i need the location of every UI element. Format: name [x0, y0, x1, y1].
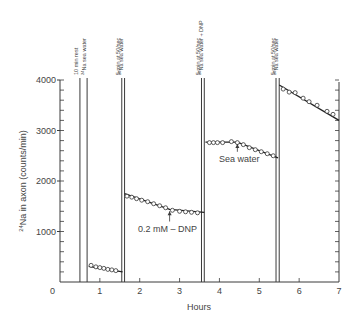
- y-axis-label: 24Na in axon (counts/min): [18, 130, 28, 232]
- arrowhead-icon: [235, 144, 239, 148]
- data-point: [281, 87, 285, 91]
- data-point: [178, 209, 182, 213]
- data-point: [130, 195, 134, 199]
- data-point: [287, 90, 291, 94]
- x-tick-label: 6: [297, 286, 302, 296]
- data-point: [229, 140, 233, 144]
- data-point: [146, 200, 150, 204]
- data-point: [106, 267, 110, 271]
- chart: 010002000300040001234567 10 min rest24Na…: [0, 0, 358, 321]
- vertical-marker-label: 24Na sea water + DNP: [197, 20, 204, 75]
- data-point: [253, 148, 257, 152]
- data-point: [315, 103, 319, 107]
- data-point: [158, 204, 162, 208]
- data-point: [164, 206, 168, 210]
- data-point: [114, 269, 118, 273]
- data-point: [125, 194, 129, 198]
- y-tick-label: 3000: [36, 126, 56, 136]
- vertical-markers: 10 min rest24Na sea water5 min at 50/sec…: [73, 20, 279, 282]
- y-tick-label: 4000: [36, 75, 56, 85]
- data-point: [331, 112, 335, 116]
- data-point: [152, 202, 156, 206]
- data-point: [98, 266, 102, 270]
- data-point: [135, 197, 139, 201]
- axes: 010002000300040001234567: [36, 75, 342, 296]
- y-tick-label: 1000: [36, 227, 56, 237]
- vertical-marker-label: 24Na sea water: [117, 38, 124, 75]
- y-tick-label: 0: [50, 286, 55, 296]
- x-tick-label: 4: [217, 286, 222, 296]
- data-point: [207, 141, 211, 145]
- data-point: [235, 141, 239, 145]
- vertical-marker-label: 10 min rest: [73, 47, 79, 75]
- data-point: [247, 146, 251, 150]
- data-point: [259, 150, 263, 154]
- data-point: [241, 143, 245, 147]
- annotations: 0.2 mM – DNPSea water: [138, 144, 260, 233]
- data-point: [325, 109, 329, 113]
- data-point: [211, 141, 215, 145]
- data-point: [102, 266, 106, 270]
- vertical-marker-label: 24Na sea water: [272, 38, 279, 75]
- data-point: [170, 208, 174, 212]
- data-point: [89, 263, 93, 267]
- data-point: [190, 210, 194, 214]
- data-point: [110, 268, 114, 272]
- x-axis-label: Hours: [187, 302, 212, 312]
- data-point: [293, 91, 297, 95]
- data-point: [265, 152, 269, 156]
- data-point: [301, 96, 305, 100]
- x-tick-label: 7: [336, 286, 341, 296]
- data-point: [140, 198, 144, 202]
- annotation-label: 0.2 mM – DNP: [138, 224, 197, 234]
- data-point: [271, 154, 275, 158]
- x-tick-label: 3: [177, 286, 182, 296]
- data-point: [196, 211, 200, 215]
- y-tick-label: 2000: [36, 176, 56, 186]
- data-point: [221, 141, 225, 145]
- annotation-label: Sea water: [219, 154, 260, 164]
- data-point: [94, 265, 98, 269]
- y-axis-label-text: Na in axon (counts/min): [18, 130, 28, 225]
- data-series: [89, 85, 339, 273]
- x-tick-label: 5: [257, 286, 262, 296]
- data-point: [307, 100, 311, 104]
- data-point: [184, 210, 188, 214]
- x-tick-label: 1: [97, 286, 102, 296]
- vertical-marker-label: 24Na sea water: [80, 38, 87, 75]
- x-tick-label: 2: [137, 286, 142, 296]
- data-point: [215, 141, 219, 145]
